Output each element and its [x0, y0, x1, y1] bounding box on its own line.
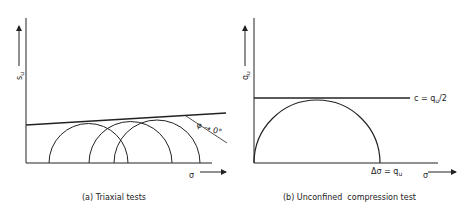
- diameter-label: Δσ = qu: [371, 167, 402, 177]
- mohr-circle-2: [89, 122, 172, 163]
- phi-annotation: φ → 0°: [195, 120, 223, 137]
- caption-a: (a) Triaxial tests: [82, 193, 146, 202]
- diagram-canvas: su σ φ → 0° qu σ c = qu/2 Δσ = qu: [0, 0, 471, 218]
- mohr-circle: [254, 100, 380, 163]
- panel-a-triaxial: [19, 18, 227, 172]
- panel-b-labels: qu σ c = qu/2 Δσ = qu: [241, 71, 447, 180]
- x-axis-label: σ: [189, 171, 194, 180]
- y-axis-label: su: [15, 72, 25, 80]
- mohr-circle-1: [49, 123, 128, 163]
- failure-envelope: [26, 113, 226, 125]
- panel-a-labels: su σ φ → 0°: [15, 72, 223, 180]
- envelope-label: c = qu/2: [414, 94, 447, 104]
- caption-b: (b) Unconfined compression test: [283, 193, 416, 202]
- y-axis-label: qu: [241, 71, 251, 80]
- x-axis-label: σ: [423, 171, 428, 180]
- mohr-circle-3: [114, 120, 200, 163]
